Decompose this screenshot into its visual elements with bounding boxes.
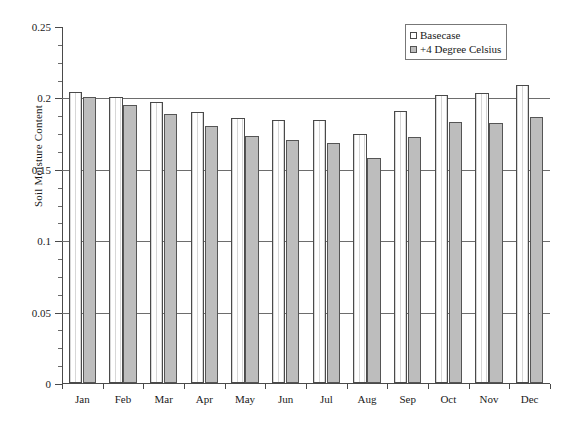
y-tick-minor <box>58 134 62 135</box>
y-tick-minor <box>58 63 62 64</box>
bar-basecase-mar <box>150 102 164 383</box>
y-tick-label: 0.15 <box>32 164 51 176</box>
y-tick-minor <box>58 45 62 46</box>
bar-basecase-may <box>231 118 245 383</box>
bar-plus4c-apr <box>205 126 219 383</box>
x-tick-label-feb: Feb <box>115 393 132 405</box>
y-tick-label: 0.1 <box>37 235 51 247</box>
y-axis-line <box>62 27 63 384</box>
y-tick-minor <box>58 259 62 260</box>
y-tick-minor <box>58 116 62 117</box>
y-tick-label: 0 <box>46 378 52 390</box>
x-tick <box>184 384 185 389</box>
y-tick-label: 0.2 <box>37 92 51 104</box>
y-tick-major <box>55 313 62 314</box>
x-tick-label-apr: Apr <box>196 393 213 405</box>
legend-swatch-plus4c-icon <box>410 46 417 53</box>
y-tick-major <box>55 98 62 99</box>
bar-basecase-oct <box>435 95 449 383</box>
y-tick-label: 0.05 <box>32 307 51 319</box>
bar-basecase-dec <box>516 85 530 383</box>
x-tick <box>306 384 307 389</box>
x-tick-label-nov: Nov <box>480 393 499 405</box>
bar-basecase-jun <box>272 120 286 383</box>
bar-plus4c-nov <box>489 123 503 383</box>
y-tick-major <box>55 27 62 28</box>
x-tick-label-jul: Jul <box>320 393 333 405</box>
x-tick <box>143 384 144 389</box>
x-tick-label-jan: Jan <box>75 393 90 405</box>
y-tick-major <box>55 241 62 242</box>
x-tick-label-dec: Dec <box>521 393 539 405</box>
bar-plus4c-oct <box>449 122 463 383</box>
bar-plus4c-jan <box>83 97 97 383</box>
legend-item-plus4c: +4 Degree Celsius <box>410 42 501 56</box>
bar-basecase-aug <box>353 134 367 383</box>
x-tick <box>509 384 510 389</box>
x-tick-label-aug: Aug <box>358 393 377 405</box>
bar-plus4c-aug <box>367 158 381 383</box>
bar-plus4c-may <box>245 136 259 383</box>
legend-label-plus4c: +4 Degree Celsius <box>420 42 501 56</box>
y-tick-minor <box>58 295 62 296</box>
plot-area: 00.050.10.150.20.25 JanFebMarAprMayJunJu… <box>62 27 550 384</box>
x-tick <box>550 384 551 389</box>
y-tick-minor <box>58 223 62 224</box>
y-tick-major <box>55 170 62 171</box>
x-tick <box>428 384 429 389</box>
legend-swatch-basecase-icon <box>410 32 417 39</box>
x-tick <box>62 384 63 389</box>
y-tick-minor <box>58 277 62 278</box>
bar-basecase-apr <box>191 112 205 383</box>
x-tick-label-sep: Sep <box>399 393 416 405</box>
soil-moisture-bar-chart: Soil Moisture Content 00.050.10.150.20.2… <box>0 0 565 423</box>
y-tick-label: 0.25 <box>32 21 51 33</box>
bar-plus4c-mar <box>164 114 178 383</box>
bar-basecase-jan <box>69 92 83 383</box>
bar-plus4c-feb <box>123 105 137 383</box>
bar-basecase-nov <box>475 93 489 383</box>
y-tick-minor <box>58 152 62 153</box>
bar-basecase-jul <box>313 120 327 383</box>
bar-plus4c-jun <box>286 140 300 383</box>
y-tick-major <box>55 384 62 385</box>
y-tick-minor <box>58 206 62 207</box>
y-tick-minor <box>58 366 62 367</box>
legend: Basecase +4 Degree Celsius <box>405 24 507 60</box>
x-tick <box>103 384 104 389</box>
x-tick-label-jun: Jun <box>278 393 293 405</box>
bar-basecase-feb <box>109 97 123 383</box>
x-tick <box>387 384 388 389</box>
bar-basecase-sep <box>394 111 408 383</box>
x-tick-label-oct: Oct <box>440 393 456 405</box>
x-tick-label-may: May <box>235 393 255 405</box>
x-tick-label-mar: Mar <box>154 393 172 405</box>
legend-label-basecase: Basecase <box>420 28 460 42</box>
legend-item-basecase: Basecase <box>410 28 501 42</box>
y-tick-minor <box>58 81 62 82</box>
x-tick <box>225 384 226 389</box>
y-tick-minor <box>58 188 62 189</box>
bar-plus4c-sep <box>408 137 422 383</box>
bar-plus4c-jul <box>327 143 341 383</box>
x-tick <box>265 384 266 389</box>
x-tick <box>347 384 348 389</box>
x-tick <box>469 384 470 389</box>
y-tick-minor <box>58 330 62 331</box>
y-tick-minor <box>58 348 62 349</box>
bar-plus4c-dec <box>530 117 544 383</box>
